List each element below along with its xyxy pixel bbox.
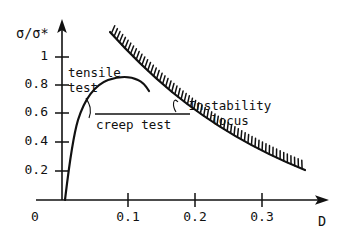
instability-label-leader — [174, 100, 178, 112]
y-tick-label-1: 1 — [10, 49, 48, 63]
y-axis — [57, 19, 67, 200]
instability-locus-label-line1: Instability — [184, 99, 276, 113]
y-tick-label-0-8: 0.8 — [10, 77, 48, 91]
chart-canvas — [0, 0, 346, 244]
creep-test-label: creep test — [96, 118, 171, 132]
x-tick-label-0-2: 0.2 — [173, 210, 217, 224]
instability-locus-label-line2: locus — [184, 114, 276, 128]
x-tick-label-0-3: 0.3 — [240, 210, 284, 224]
y-tick-label-0-6: 0.6 — [10, 105, 48, 119]
origin-tick-label: 0 — [22, 210, 48, 224]
tensile-test-label-line2: test — [68, 81, 98, 95]
x-axis-title: D — [318, 214, 326, 229]
x-tick-label-0-1: 0.1 — [106, 210, 150, 224]
stress-damage-chart: σ/σ* D 1 0.8 0.6 0.4 0.2 0 0.1 0.2 0.3 t… — [0, 0, 346, 244]
x-axis — [36, 195, 329, 205]
y-tick-label-0-4: 0.4 — [10, 134, 48, 148]
y-tick-label-0-2: 0.2 — [10, 163, 48, 177]
tensile-test-label-line1: tensile — [68, 66, 121, 80]
tensile-test-curve — [65, 77, 149, 200]
y-axis-title: σ/σ* — [16, 26, 49, 41]
